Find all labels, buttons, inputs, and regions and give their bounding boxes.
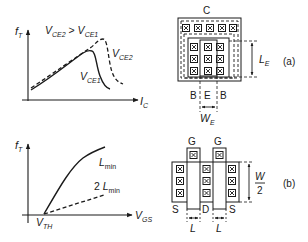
- vth-label: VTH: [36, 216, 53, 230]
- l2-label: L: [216, 222, 222, 234]
- x-axis-label: IC: [140, 95, 149, 109]
- vce1-label: VCE1: [80, 70, 101, 84]
- y-axis-label: fT: [15, 139, 23, 153]
- x-axis-label: VGS: [135, 209, 152, 223]
- tag-a: (a): [283, 56, 295, 67]
- b-label-left: B: [190, 90, 197, 101]
- source-label-right: S: [229, 204, 236, 215]
- b-label-right: B: [220, 90, 227, 101]
- 2lmin-label: 2 Lmin: [94, 180, 120, 194]
- gate-left: [187, 148, 200, 209]
- curve-vce1: [31, 51, 110, 90]
- y-axis-label: fT: [15, 25, 23, 39]
- ft-vs-ic-plot: fT IC VCE2 > VCE1 VCE2 VCE1: [15, 24, 149, 109]
- lmin-label: Lmin: [99, 156, 116, 170]
- gate-label-left: G: [188, 136, 196, 147]
- tag-b: (b): [283, 178, 295, 189]
- le-label: LE: [259, 53, 270, 67]
- source-label-left: S: [172, 204, 179, 215]
- vce2-label: VCE2: [112, 47, 133, 61]
- collector-label: C: [203, 5, 210, 16]
- collector-contacts: [183, 25, 237, 32]
- gate-right: [213, 148, 226, 209]
- ft-vs-vgs-plot: fT VGS VTH Lmin 2 Lmin: [15, 139, 152, 230]
- l1-label: L: [190, 222, 196, 234]
- drain-label: D: [202, 204, 209, 215]
- e-label: E: [204, 90, 211, 101]
- bipolar-layout: C LE (a) B: [178, 5, 295, 126]
- we-label: WE: [200, 112, 215, 126]
- base-emitter-contacts: [191, 44, 224, 75]
- gate-label-right: G: [214, 136, 222, 147]
- w-numerator: W: [255, 171, 266, 182]
- w-denominator: 2: [257, 185, 263, 196]
- diffusion-contacts: [177, 166, 236, 197]
- condition-label: VCE2 > VCE1: [45, 24, 98, 38]
- figure-canvas: fT IC VCE2 > VCE1 VCE2 VCE1 fT VGS VTH L…: [0, 0, 308, 242]
- mos-layout: G G S D S W 2 (b): [172, 136, 295, 234]
